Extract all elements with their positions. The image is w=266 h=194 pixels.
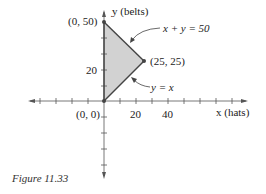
y-axis-label-text: y (belts) <box>112 6 148 17</box>
vertex-0-50 <box>102 20 106 24</box>
x-axis <box>30 98 246 104</box>
y-axis-bottom-arrow-icon <box>102 172 106 179</box>
x-axis-left-arrow-icon <box>28 99 35 103</box>
y-tick-label-20: 20 <box>86 65 97 76</box>
leader-arrow-line1-icon <box>132 28 160 40</box>
x-tick-label-40: 40 <box>162 109 173 120</box>
vertex-0-0 <box>102 99 106 103</box>
line-label-x-plus-y: x + y = 50 <box>163 23 210 34</box>
point-label-0-50: (0, 50) <box>68 16 97 27</box>
vertex-25-25 <box>142 59 146 63</box>
leader-arrow-line2-icon <box>134 80 150 87</box>
point-label-origin: (0, 0) <box>76 109 100 120</box>
x-tick-label-20: 20 <box>130 109 141 120</box>
chart-figure <box>0 0 266 194</box>
figure-caption: Figure 11.33 <box>12 172 68 184</box>
line-label-y-equals-x: y = x <box>151 82 174 93</box>
point-label-25-25: (25, 25) <box>150 56 185 67</box>
y-axis-top-arrow-icon <box>102 10 106 17</box>
x-axis-label: x (hats) <box>216 107 249 118</box>
x-axis-right-arrow-icon <box>241 99 248 103</box>
